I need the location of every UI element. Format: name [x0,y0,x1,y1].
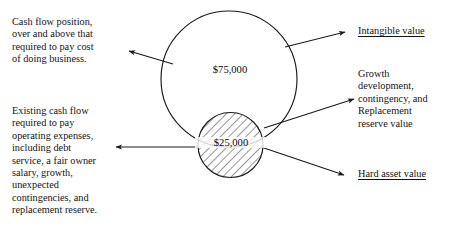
small-circle-amount: $25,000 [195,137,267,148]
diagram-canvas: Cash flow position, over and above that … [0,0,452,231]
intangible-value-heading: Intangible value [358,25,425,37]
growth-reserve-value-label: Growth development, contingency, and Rep… [358,68,452,130]
arrow-to-hard-asset-value [261,147,344,175]
cash-flow-position-label: Cash flow position, over and above that … [12,16,144,66]
arrow-to-intangible-value [285,32,345,47]
large-circle-amount: $75,000 [193,64,267,75]
hard-asset-value-heading: Hard asset value [358,168,426,180]
existing-cash-flow-label: Existing cash flow required to pay opera… [12,105,144,217]
